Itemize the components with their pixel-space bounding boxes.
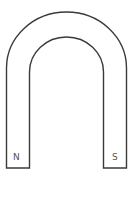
north-pole-label: N — [13, 152, 20, 162]
magnet-body — [7, 12, 127, 168]
south-pole-label: S — [112, 152, 118, 162]
horseshoe-magnet-diagram: N S — [0, 0, 132, 201]
